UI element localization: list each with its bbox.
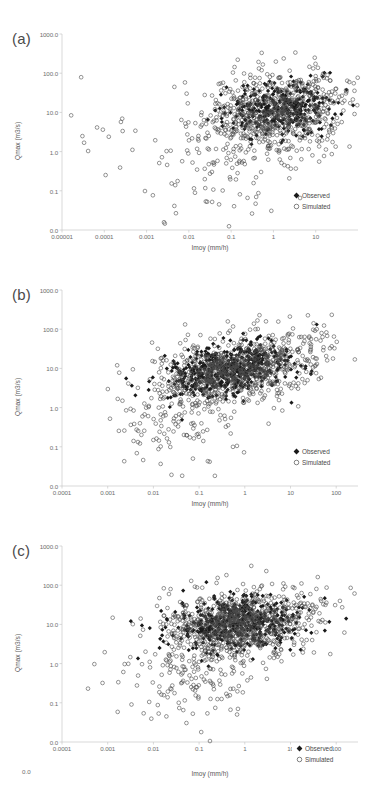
data-point-simulated [236,707,240,711]
data-point-simulated [93,662,97,666]
data-point-simulated [156,703,160,707]
data-point-simulated [278,129,282,133]
data-point-simulated [104,173,108,177]
data-point-simulated [307,612,311,616]
data-point-simulated [169,659,173,663]
data-point-simulated [341,101,345,105]
x-tick-label: 0.001 [88,489,128,496]
data-point-simulated [317,160,321,164]
data-point-simulated [183,347,187,351]
data-point-simulated [260,87,264,91]
data-point-simulated [142,711,146,715]
data-point-simulated [224,162,228,166]
data-point-simulated [242,80,246,84]
data-point-simulated [191,427,195,431]
data-point-simulated [226,320,230,324]
data-point-simulated [173,183,177,187]
data-point-simulated [348,101,352,105]
data-point-simulated [207,162,211,166]
data-point-simulated [186,681,190,685]
data-point-simulated [325,586,329,590]
data-point-simulated [242,450,246,454]
data-point-simulated [322,125,326,129]
data-point-simulated [124,409,128,413]
data-point-simulated [170,473,174,477]
data-point-simulated [146,414,150,418]
data-point-simulated [138,634,142,638]
y-axis-title: Qmax (m3/s) [14,634,21,672]
x-tick-label: 0.001 [88,745,128,752]
data-point-simulated [229,432,233,436]
data-point-simulated [207,654,211,658]
data-point-simulated [186,640,190,644]
data-point-simulated [356,76,360,80]
data-point-observed [140,623,144,627]
y-axis-title: Qmax (m3/s) [14,378,21,416]
data-point-simulated [296,404,300,408]
data-point-simulated [312,651,316,655]
data-point-simulated [101,681,105,685]
data-point-observed [244,338,248,342]
data-point-simulated [330,152,334,156]
data-point-observed [294,376,298,380]
data-point-observed [187,648,191,652]
data-point-simulated [161,405,165,409]
data-point-simulated [221,641,225,645]
data-point-simulated [187,659,191,663]
data-point-simulated [232,341,236,345]
data-point-simulated [313,56,317,60]
data-point-simulated [301,642,305,646]
data-point-simulated [155,604,159,608]
data-point-simulated [103,650,107,654]
data-point-simulated [245,654,249,658]
data-point-simulated [195,168,199,172]
data-point-simulated [203,167,207,171]
data-point-simulated [117,429,121,433]
data-point-simulated [209,337,213,341]
data-point-observed [158,637,162,641]
data-point-simulated [326,134,330,138]
panel-a: (a)1000.0100.010.01.00.10.00.000010.0001… [0,12,380,268]
data-point-simulated [220,697,224,701]
data-point-simulated [215,659,219,663]
data-point-simulated [324,148,328,152]
data-point-simulated [120,117,124,121]
data-point-simulated [324,118,328,122]
data-point-simulated [151,359,155,363]
data-point-simulated [294,51,298,55]
data-point-observed [204,580,208,584]
data-point-simulated [286,164,290,168]
data-point-simulated [207,148,211,152]
data-point-simulated [302,647,306,651]
data-point-simulated [159,418,163,422]
data-point-simulated [218,679,222,683]
x-tick-label: 10 [270,489,310,496]
data-point-simulated [187,392,191,396]
data-point-simulated [325,138,329,142]
data-point-simulated [236,58,240,62]
data-point-simulated [160,155,164,159]
x-tick-label: 0.00001 [42,233,82,240]
data-point-simulated [211,667,215,671]
data-point-simulated [296,361,300,365]
data-point-simulated [307,147,311,151]
data-point-simulated [314,371,318,375]
data-point-simulated [263,342,267,346]
data-point-simulated [214,147,218,151]
data-point-observed [147,388,151,392]
data-point-simulated [153,652,157,656]
data-point-simulated [256,401,260,405]
data-point-simulated [197,660,201,664]
data-point-simulated [190,612,194,616]
y-tick-label: 1.0 [22,404,58,411]
data-point-simulated [233,155,237,159]
data-point-simulated [292,381,296,385]
data-point-simulated [183,323,187,327]
data-point-simulated [246,679,250,683]
data-point-simulated [132,439,136,443]
data-point-simulated [322,154,326,158]
data-point-simulated [208,410,212,414]
data-point-simulated [261,661,265,665]
data-point-simulated [232,204,236,208]
data-point-simulated [149,717,153,721]
